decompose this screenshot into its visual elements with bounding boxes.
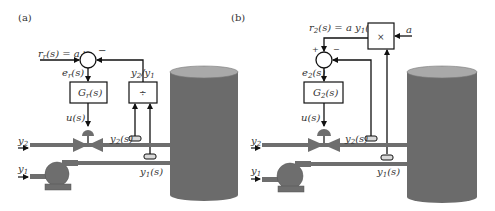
ratio-label-a: y2/y1 [130,67,155,80]
control-valve-b [308,129,340,152]
divider-symbol-a: ÷ [139,88,147,98]
u-label-b: u(s) [301,112,320,123]
summing-junction-a [80,52,96,68]
valve-actuator-icon [317,129,331,136]
setpoint-arrow-b [324,38,368,51]
plus-sign-b: + [312,45,319,54]
panel-b: (b) r2(s) = a y1(s) × a + − e2(s) G2(s) … [231,12,477,203]
pipe-y1-a [62,161,172,165]
y1-measurement-label-a: y1(s) [139,166,163,179]
control-valve-a [73,130,103,152]
y1-flow-label-a: y1 [17,163,28,176]
pump-a [45,160,78,190]
ratio-control-diagram: (a) rr(s) = a + − er(s) Gr(s) y2/y1 ÷ u(… [0,0,495,211]
valve-actuator-icon [82,130,94,136]
y2-flow-label-b: y2 [250,135,262,148]
panel-a: (a) rr(s) = a + − er(s) Gr(s) y2/y1 ÷ u(… [17,12,238,201]
minus-sign-a: − [98,45,106,56]
gain-label-b: a [406,24,412,35]
setpoint-label-a: rr(s) = a [38,48,80,61]
y1-flow-sensor-b [381,155,393,160]
tank-a [170,66,238,201]
minus-sign-b: − [333,45,340,54]
y1-flow-sensor-a [144,154,156,159]
y1-measurement-label-b: y1(s) [376,166,400,179]
summing-junction-b [316,52,332,68]
panel-a-tag: (a) [18,12,32,23]
u-label-a: u(s) [66,112,85,123]
y2-flow-label-a: y2 [17,135,29,148]
error-label-a: er(s) [62,67,84,80]
error-label-b: e2(s) [302,67,325,80]
multiplier-symbol-b: × [377,32,385,42]
pump-b [277,161,311,192]
y1-flow-label-b: y1 [250,165,261,178]
panel-b-tag: (b) [231,12,245,23]
tank-b [407,66,477,203]
